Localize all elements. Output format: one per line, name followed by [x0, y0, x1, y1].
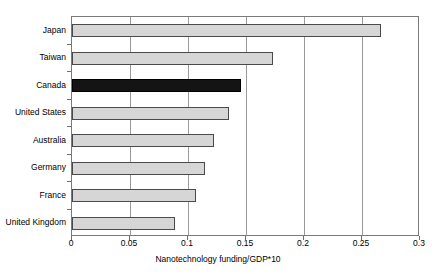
y-axis-label-taiwan: Taiwan — [0, 52, 66, 62]
y-axis-label-france: France — [0, 190, 66, 200]
x-axis-tick-label: 0.1 — [167, 238, 207, 248]
x-axis-tick-label: 0.25 — [341, 238, 381, 248]
bar-row — [72, 127, 420, 154]
bar-japan — [72, 24, 381, 37]
x-axis-tick-label: 0.15 — [225, 238, 265, 248]
bar-row — [72, 17, 420, 44]
bar-germany — [72, 162, 205, 175]
y-axis-label-united-states: United States — [0, 107, 66, 117]
y-axis-tick — [67, 209, 71, 210]
x-axis-title: Nanotechnology funding/GDP*10 — [0, 254, 436, 264]
bar-row — [72, 100, 420, 127]
bar-row — [72, 45, 420, 72]
y-axis-tick — [67, 181, 71, 182]
bar-row — [72, 72, 420, 99]
y-axis-label-australia: Australia — [0, 135, 66, 145]
y-axis-tick — [67, 44, 71, 45]
bar-united-states — [72, 107, 229, 120]
y-axis-label-united-kingdom: United Kingdom — [0, 217, 66, 227]
y-axis-label-japan: Japan — [0, 25, 66, 35]
bar-row — [72, 155, 420, 182]
x-axis-tick-label: 0.05 — [109, 238, 149, 248]
bar-row — [72, 210, 420, 237]
y-axis-tick — [67, 99, 71, 100]
y-axis-label-germany: Germany — [0, 162, 66, 172]
bar-taiwan — [72, 52, 273, 65]
y-axis-label-canada: Canada — [0, 80, 66, 90]
y-axis-tick — [67, 126, 71, 127]
x-axis-tick-label: 0.2 — [283, 238, 323, 248]
bar-canada — [72, 79, 241, 92]
bar-united-kingdom — [72, 217, 175, 230]
bar-chart: JapanTaiwanCanadaUnited StatesAustraliaG… — [0, 0, 436, 274]
plot-area — [71, 16, 419, 236]
y-axis-tick — [67, 71, 71, 72]
x-axis-tick-label: 0 — [51, 238, 91, 248]
bar-australia — [72, 134, 214, 147]
bar-france — [72, 189, 196, 202]
bar-row — [72, 182, 420, 209]
x-axis-tick-label: 0.3 — [399, 238, 436, 248]
y-axis-tick — [67, 154, 71, 155]
